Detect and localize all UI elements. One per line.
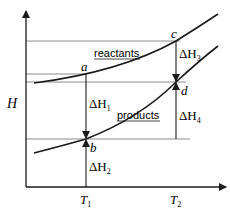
delta-h4-label: ΔH4 bbox=[179, 108, 201, 125]
point-b-label: b bbox=[90, 140, 97, 155]
x-tick-t1: T1 bbox=[80, 192, 91, 209]
delta-h1-label: ΔH1 bbox=[89, 96, 111, 113]
x-tick-t2: T2 bbox=[170, 192, 181, 209]
delta-h2-label: ΔH2 bbox=[89, 159, 111, 176]
products-label: products bbox=[117, 109, 160, 121]
enthalpy-diagram: H reactants products a b c d ΔH1 ΔH2 ΔH3… bbox=[0, 0, 230, 215]
point-a-label: a bbox=[81, 59, 88, 74]
point-c-label: c bbox=[171, 26, 177, 41]
point-d-label: d bbox=[181, 83, 188, 98]
delta-h3-label: ΔH3 bbox=[179, 46, 201, 63]
reactants-label: reactants bbox=[94, 47, 140, 59]
y-axis-label: H bbox=[6, 96, 18, 111]
